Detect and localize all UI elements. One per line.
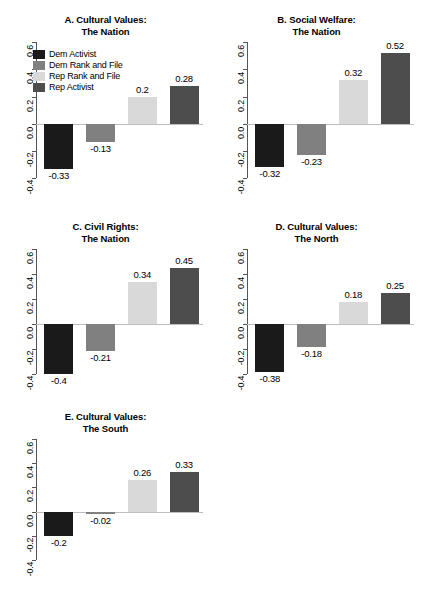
- bar: [170, 472, 199, 512]
- y-axis-tick-label: 0.2: [236, 298, 246, 318]
- bar-value-label: -0.2: [31, 537, 86, 548]
- bar-value-label: -0.23: [284, 156, 339, 167]
- y-axis-tick-label: 0.0: [25, 323, 35, 343]
- bar: [128, 282, 157, 325]
- bar: [339, 80, 368, 124]
- y-axis-line: [36, 249, 37, 374]
- bar: [44, 124, 73, 169]
- legend-label: Rep Activist: [49, 83, 94, 92]
- plot-area: 0.60.40.20.0-0.2-0.4-0.38-0.180.180.25: [211, 215, 422, 415]
- bar: [170, 86, 199, 124]
- bar-value-label: -0.02: [73, 515, 128, 526]
- panel-b: B. Social Welfare:The Nation0.60.40.20.0…: [211, 8, 422, 220]
- panel-d: D. Cultural Values:The North0.60.40.20.0…: [211, 215, 422, 415]
- bar: [86, 512, 115, 514]
- legend-swatch-icon: [33, 72, 45, 81]
- bar-value-label: -0.33: [31, 170, 86, 181]
- y-axis-tick-label: -0.2: [236, 348, 246, 368]
- y-axis-tick-label: 0.4: [25, 462, 35, 482]
- bar-value-label: 0.25: [368, 280, 422, 291]
- figure-multi-panel-bar-charts: A. Cultural Values:The Nation0.60.40.20.…: [0, 0, 422, 600]
- y-axis-line: [247, 249, 248, 374]
- y-axis-tick-label: -0.4: [236, 177, 246, 197]
- plot-area: 0.60.40.20.0-0.2-0.4-0.32-0.230.320.52: [211, 8, 422, 220]
- legend-item: Rep Activist: [33, 82, 123, 92]
- bar-value-label: -0.4: [31, 375, 86, 386]
- bar: [128, 480, 157, 511]
- bar-value-label: -0.38: [242, 373, 297, 384]
- y-axis-tick-label: 0.0: [25, 123, 35, 143]
- bar: [86, 124, 115, 142]
- y-axis-tick-label: 0.0: [236, 123, 246, 143]
- bar: [255, 324, 284, 372]
- plot-area: 0.60.40.20.0-0.2-0.4-0.4-0.210.340.45: [0, 215, 211, 415]
- bar-value-label: 0.2: [115, 84, 170, 95]
- y-axis-tick-label: -0.2: [25, 150, 35, 170]
- y-axis-tick-label: -0.2: [25, 348, 35, 368]
- bar-value-label: -0.32: [242, 168, 297, 179]
- bar-value-label: 0.32: [326, 67, 381, 78]
- bar: [297, 324, 326, 347]
- y-axis-tick-label: 0.4: [236, 273, 246, 293]
- legend-label: Dem Rank and File: [49, 61, 123, 70]
- legend-item: Dem Activist: [33, 49, 123, 59]
- bar-value-label: 0.52: [368, 40, 422, 51]
- panel-a: A. Cultural Values:The Nation0.60.40.20.…: [0, 8, 211, 220]
- bar: [255, 124, 284, 168]
- y-axis-tick-label: 0.4: [25, 273, 35, 293]
- panel-c: C. Civil Rights:The Nation0.60.40.20.0-0…: [0, 215, 211, 415]
- legend-item: Rep Rank and File: [33, 71, 123, 81]
- bar: [44, 324, 73, 374]
- bar-value-label: -0.18: [284, 348, 339, 359]
- plot-area: 0.60.40.20.0-0.2-0.4-0.2-0.020.260.33: [0, 405, 211, 600]
- y-axis-tick-label: 0.6: [25, 248, 35, 268]
- bar: [170, 268, 199, 324]
- y-axis-tick-label: 0.6: [236, 41, 246, 61]
- y-axis-tick-label: 0.0: [236, 323, 246, 343]
- y-axis-tick-label: 0.6: [236, 248, 246, 268]
- legend-label: Dem Activist: [49, 50, 96, 59]
- bar: [381, 293, 410, 324]
- y-axis-tick-label: 0.2: [25, 298, 35, 318]
- plot-area: 0.60.40.20.0-0.2-0.4-0.33-0.130.20.28: [0, 8, 211, 220]
- y-axis-line: [247, 42, 248, 178]
- legend-swatch-icon: [33, 61, 45, 70]
- panel-e: E. Cultural Values:The South0.60.40.20.0…: [0, 405, 211, 600]
- bar-value-label: 0.28: [157, 73, 212, 84]
- bar-value-label: -0.21: [73, 352, 128, 363]
- bar: [86, 324, 115, 350]
- bar: [381, 53, 410, 124]
- bar-value-label: 0.33: [157, 459, 212, 470]
- y-axis-tick-label: 0.6: [25, 438, 35, 458]
- y-axis-tick-label: 0.2: [236, 96, 246, 116]
- y-axis-tick-label: -0.2: [236, 150, 246, 170]
- bar-value-label: 0.34: [115, 269, 170, 280]
- y-axis-tick-label: 0.4: [236, 68, 246, 88]
- bar: [44, 512, 73, 536]
- bar: [128, 97, 157, 124]
- y-axis-tick-label: 0.0: [25, 511, 35, 531]
- legend: Dem ActivistDem Rank and FileRep Rank an…: [33, 49, 123, 93]
- legend-item: Dem Rank and File: [33, 60, 123, 70]
- bar-value-label: -0.13: [73, 143, 128, 154]
- y-axis-tick-label: -0.4: [25, 559, 35, 579]
- legend-swatch-icon: [33, 50, 45, 59]
- legend-label: Rep Rank and File: [49, 72, 120, 81]
- bar-value-label: 0.45: [157, 255, 212, 266]
- bar: [297, 124, 326, 155]
- legend-swatch-icon: [33, 83, 45, 92]
- y-axis-tick-label: 0.2: [25, 486, 35, 506]
- bar: [339, 302, 368, 325]
- y-axis-tick-label: 0.2: [25, 96, 35, 116]
